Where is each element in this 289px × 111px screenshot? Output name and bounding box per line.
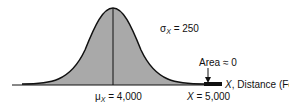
mean-label: μX = 4,000 (95, 91, 142, 103)
sigma-label: σX = 250 (160, 23, 199, 35)
area-label: Area ≈ 0 (199, 57, 237, 68)
axis-label: X, Distance (Feet) (225, 79, 289, 90)
x-value-label: X = 5,000 (187, 91, 230, 102)
normal-curve-diagram: σX = 250 Area ≈ 0 X, Distance (Feet) μX … (0, 0, 289, 111)
curve-graphic (0, 0, 289, 111)
tail-area-marker (204, 82, 222, 86)
